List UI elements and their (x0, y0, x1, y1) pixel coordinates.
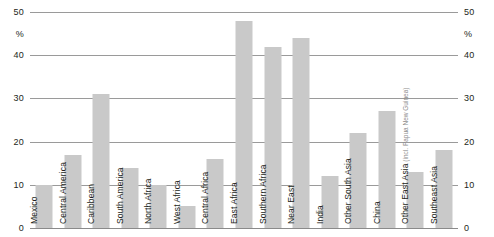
y-tick-left-50: 50 (14, 8, 24, 17)
y-tick-right-0: 0 (464, 224, 469, 233)
y-tick-left-20: 20 (14, 138, 24, 147)
plot-area: MexicoCentral AmericaCaribbeanSouth Amer… (30, 12, 458, 228)
category-label: West Africa (173, 180, 182, 224)
category-label: Near East (287, 185, 296, 224)
bar-slot: East Africa (230, 12, 259, 228)
category-sublabel: (incl. Papua New Guinea) (402, 88, 409, 164)
category-label: Central Africa (201, 172, 210, 224)
category-label: Caribbean (87, 184, 96, 224)
category-label: Mexico (30, 196, 39, 224)
y-tick-left-40: 40 (14, 51, 24, 60)
bar-slot: Central America (59, 12, 88, 228)
bar-slot: Caribbean (87, 12, 116, 228)
y-tick-left-30: 30 (14, 94, 24, 103)
y-tick-right-20: 20 (464, 138, 474, 147)
bar-slot: Other East Asia (incl. Papua New Guinea) (401, 12, 430, 228)
category-label: Southeast Asia (430, 166, 439, 224)
y-tick-left-0: 0 (19, 224, 24, 233)
y-axis-unit-right: % (464, 30, 472, 39)
category-label: North Africa (144, 178, 153, 224)
category-label: India (316, 205, 325, 224)
category-label: South America (116, 167, 125, 224)
y-tick-left-10: 10 (14, 181, 24, 190)
category-label: Other East Asia (incl. Papua New Guinea) (401, 88, 410, 224)
bar-slot: China (372, 12, 401, 228)
category-label: China (373, 201, 382, 224)
y-axis-left: 50403020100% (0, 12, 24, 228)
bar-slot: Central Africa (201, 12, 230, 228)
bar-slot: Southern Africa (258, 12, 287, 228)
category-label: Southern Africa (259, 164, 268, 224)
y-axis-right: 50403020100% (464, 12, 494, 228)
y-tick-right-50: 50 (464, 8, 474, 17)
bar-slot: Other South Asia (344, 12, 373, 228)
bar-slot: India (315, 12, 344, 228)
bar-slot: Near East (287, 12, 316, 228)
gridline-0 (30, 228, 458, 229)
bar-series: MexicoCentral AmericaCaribbeanSouth Amer… (30, 12, 458, 228)
bar-slot: North Africa (144, 12, 173, 228)
category-label: Other South Asia (344, 158, 353, 224)
category-label: Central America (59, 162, 68, 224)
y-axis-unit-left: % (16, 30, 24, 39)
bar-slot: West Africa (173, 12, 202, 228)
category-label: East Africa (230, 182, 239, 224)
y-tick-right-30: 30 (464, 94, 474, 103)
bar-chart: 50403020100% 50403020100% MexicoCentral … (0, 0, 494, 237)
y-tick-right-10: 10 (464, 181, 474, 190)
bar-slot: South America (116, 12, 145, 228)
y-tick-right-40: 40 (464, 51, 474, 60)
bar-slot: Southeast Asia (429, 12, 458, 228)
bar-slot: Mexico (30, 12, 59, 228)
